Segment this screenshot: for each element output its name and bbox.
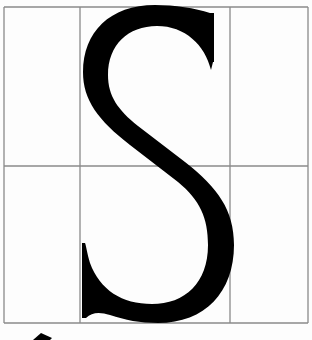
letter-construction-diagram — [0, 0, 312, 340]
pointer-arrow-icon — [33, 333, 52, 340]
letter-s-glyph — [82, 5, 234, 323]
